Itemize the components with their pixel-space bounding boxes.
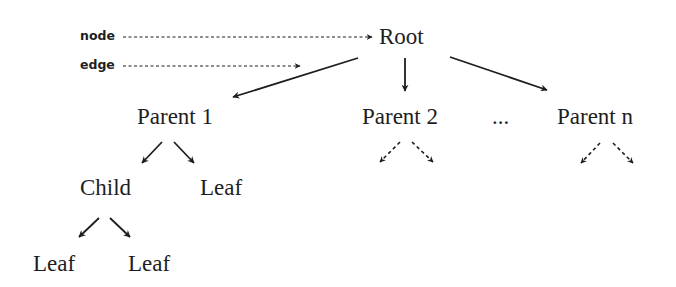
node-leaf-parent1: Leaf: [200, 176, 242, 199]
edge-parentn-dashed-left: [581, 143, 600, 163]
tree-diagram: node edge Root Parent 1 Parent 2 ... Par…: [0, 0, 676, 287]
edge-root-parent1: [233, 58, 358, 97]
edge-root-parentn: [450, 57, 547, 90]
edge-parent2-dashed-left: [380, 142, 400, 162]
node-parent-n: Parent n: [557, 105, 633, 128]
node-root: Root: [379, 25, 424, 48]
node-leaf-child-left: Leaf: [33, 252, 75, 275]
node-parent-2: Parent 2: [362, 105, 438, 128]
legend-edge-label: edge: [80, 59, 115, 72]
edges-layer: [0, 0, 676, 287]
edge-parentn-dashed-right: [613, 143, 633, 163]
edge-child-leaf-right: [110, 218, 130, 237]
edge-child-leaf-left: [79, 218, 99, 237]
node-ellipsis: ...: [492, 105, 509, 128]
edge-parent2-dashed-right: [412, 142, 433, 162]
legend-node-label: node: [80, 30, 115, 43]
edge-parent1-child: [142, 142, 162, 163]
node-leaf-child-right: Leaf: [128, 252, 170, 275]
node-child: Child: [80, 176, 131, 199]
node-parent-1: Parent 1: [137, 105, 213, 128]
edge-parent1-leaf: [174, 142, 194, 163]
